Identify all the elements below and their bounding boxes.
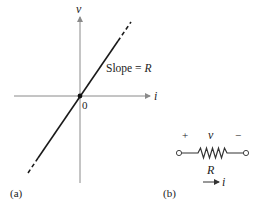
y-axis-label: v <box>76 2 82 16</box>
panel-a-plot: i v 0 Slope = R (a) <box>10 2 157 200</box>
slope-var: R <box>143 62 151 74</box>
panel-b-label: (b) <box>163 187 176 200</box>
panel-a-label: (a) <box>10 187 23 200</box>
minus-sign: − <box>235 129 241 141</box>
origin-dot <box>78 94 83 99</box>
resistor-symbol <box>182 148 244 158</box>
x-axis-label: i <box>154 89 157 103</box>
slope-annotation: Slope = R <box>106 62 151 75</box>
voltage-label: v <box>208 128 214 142</box>
current-label: i <box>222 175 225 189</box>
panel-b-circuit: + v − R i (b) <box>163 128 249 200</box>
iv-line-solid <box>38 41 118 158</box>
resistor-label: R <box>206 163 215 177</box>
iv-line-dashed-top <box>118 22 131 41</box>
plus-sign: + <box>182 129 188 141</box>
origin-label: 0 <box>82 99 88 111</box>
left-terminal <box>176 150 181 155</box>
slope-prefix: Slope = <box>106 62 144 75</box>
diagram-canvas: i v 0 Slope = R (a) + v − R i (b) <box>0 0 264 215</box>
iv-line-dashed-bottom <box>28 158 38 173</box>
right-terminal <box>243 150 248 155</box>
